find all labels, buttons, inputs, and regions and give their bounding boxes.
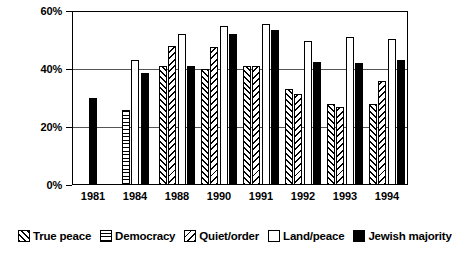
legend-item: Quiet/order — [184, 230, 259, 242]
legend-label: Land/peace — [283, 230, 344, 242]
bar-group — [72, 11, 408, 185]
legend-item: Land/peace — [268, 230, 344, 242]
y-axis: 0%20%40%60% — [0, 0, 72, 200]
bar — [369, 104, 377, 185]
x-tick-label: 1990 — [207, 190, 231, 202]
y-tick-label: 0% — [47, 179, 63, 191]
y-tick-label: 20% — [41, 121, 62, 133]
cross-hatch-grid-swatch-icon — [100, 230, 112, 242]
x-tick-label: 1991 — [249, 190, 273, 202]
x-tick-label: 1993 — [333, 190, 357, 202]
x-axis: 19811984198819901991199219931994 — [72, 186, 408, 208]
bar — [378, 81, 386, 185]
bars-layer — [72, 11, 408, 185]
legend-label: Quiet/order — [199, 230, 259, 242]
chart-legend: True peace Democracy Quiet/order Land/pe… — [18, 226, 430, 246]
diagonal-hatch-up-swatch-icon — [18, 230, 30, 242]
bar — [397, 60, 405, 185]
x-tick-label: 1984 — [123, 190, 147, 202]
solid-white-swatch-icon — [268, 230, 280, 242]
x-tick-label: 1994 — [375, 190, 399, 202]
solid-black-swatch-icon — [353, 230, 365, 242]
legend-label: Democracy — [115, 230, 175, 242]
y-tick-label: 40% — [41, 63, 62, 75]
legend-item: True peace — [18, 230, 91, 242]
diagonal-hatch-down-swatch-icon — [184, 230, 196, 242]
x-tick-label: 1981 — [81, 190, 105, 202]
legend-item: Democracy — [100, 230, 175, 242]
legend-item: Jewish majority — [353, 230, 451, 242]
legend-label: Jewish majority — [368, 230, 451, 242]
x-tick-label: 1988 — [165, 190, 189, 202]
legend-label: True peace — [33, 230, 91, 242]
y-tick-label: 60% — [41, 5, 62, 17]
bar — [388, 39, 396, 185]
x-tick-label: 1992 — [291, 190, 315, 202]
